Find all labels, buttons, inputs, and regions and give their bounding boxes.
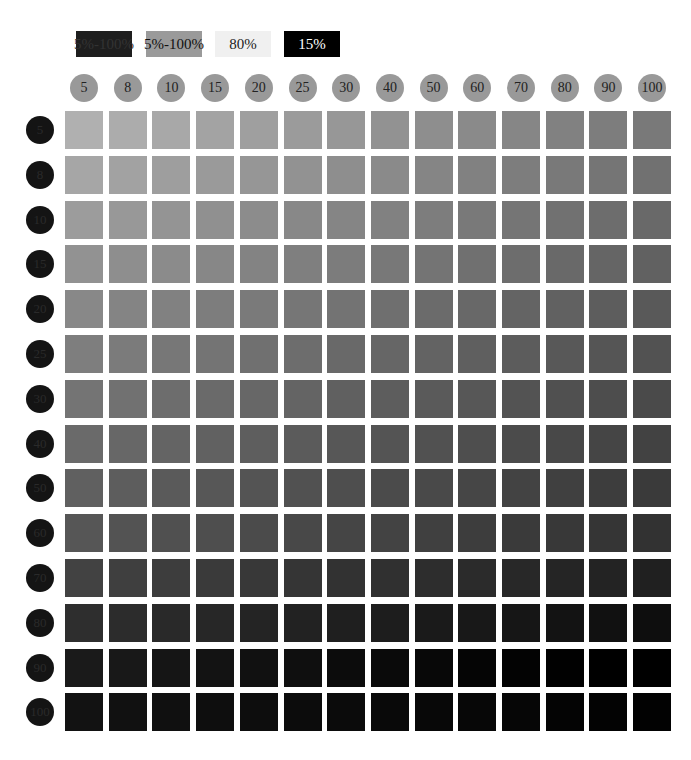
- column-header: 40: [376, 74, 404, 102]
- swatch-cell: [415, 245, 453, 283]
- swatch-cell: [109, 245, 147, 283]
- swatch-cell: [415, 604, 453, 642]
- column-header: 5: [70, 74, 98, 102]
- swatch-cell: [284, 290, 322, 328]
- swatch-cell: [240, 335, 278, 373]
- swatch-cell: [240, 380, 278, 418]
- swatch-cell: [546, 156, 584, 194]
- swatch-cell: [240, 514, 278, 552]
- swatch-cell: [152, 111, 190, 149]
- swatch-cell: [327, 469, 365, 507]
- swatch-cell: [109, 604, 147, 642]
- swatch-cell: [371, 649, 409, 687]
- row-header: 20: [26, 295, 54, 323]
- swatch-cell: [502, 425, 540, 463]
- swatch-cell: [152, 693, 190, 731]
- column-header: 30: [332, 74, 360, 102]
- swatch-cell: [546, 649, 584, 687]
- swatch-cell: [371, 245, 409, 283]
- swatch-cell: [415, 559, 453, 597]
- swatch-cell: [65, 245, 103, 283]
- row-header: 5: [26, 116, 54, 144]
- row-header: 100: [26, 698, 54, 726]
- column-header: 15: [201, 74, 229, 102]
- swatch-cell: [196, 649, 234, 687]
- swatch-cell: [502, 245, 540, 283]
- swatch-cell: [109, 559, 147, 597]
- swatch-cell: [415, 514, 453, 552]
- swatch-cell: [589, 425, 627, 463]
- swatch-cell: [327, 425, 365, 463]
- swatch-cell: [371, 156, 409, 194]
- swatch-cell: [196, 425, 234, 463]
- swatch-cell: [633, 335, 671, 373]
- swatch-cell: [458, 290, 496, 328]
- swatch-cell: [327, 604, 365, 642]
- swatch-cell: [502, 514, 540, 552]
- swatch-cell: [458, 559, 496, 597]
- swatch-cell: [65, 380, 103, 418]
- row-header: 10: [26, 206, 54, 234]
- row-header: 15: [26, 250, 54, 278]
- column-header: 100: [638, 74, 666, 102]
- row-header: 40: [26, 430, 54, 458]
- swatch-cell: [589, 156, 627, 194]
- swatch-cell: [196, 111, 234, 149]
- row-header: 8: [26, 161, 54, 189]
- swatch-cell: [589, 649, 627, 687]
- swatch-cell: [633, 693, 671, 731]
- swatch-cell: [371, 604, 409, 642]
- swatch-cell: [458, 425, 496, 463]
- swatch-cell: [546, 201, 584, 239]
- column-header: 25: [289, 74, 317, 102]
- column-header: 50: [420, 74, 448, 102]
- swatch-cell: [284, 425, 322, 463]
- swatch-cell: [65, 649, 103, 687]
- swatch-cell: [415, 290, 453, 328]
- swatch-cell: [284, 469, 322, 507]
- swatch-cell: [65, 514, 103, 552]
- swatch-cell: [109, 111, 147, 149]
- swatch-cell: [546, 469, 584, 507]
- swatch-cell: [458, 156, 496, 194]
- column-header: 80: [551, 74, 579, 102]
- swatch-cell: [371, 425, 409, 463]
- swatch-cell: [589, 380, 627, 418]
- swatch-cell: [327, 380, 365, 418]
- swatch-cell: [589, 514, 627, 552]
- swatch-cell: [327, 111, 365, 149]
- swatch-cell: [152, 604, 190, 642]
- swatch-cell: [152, 559, 190, 597]
- swatch-cell: [415, 693, 453, 731]
- column-header: 60: [463, 74, 491, 102]
- swatch-cell: [415, 469, 453, 507]
- swatch-cell: [633, 559, 671, 597]
- swatch-cell: [415, 335, 453, 373]
- swatch-cell: [415, 111, 453, 149]
- swatch-cell: [240, 425, 278, 463]
- swatch-cell: [415, 425, 453, 463]
- swatch-cell: [633, 201, 671, 239]
- swatch-cell: [589, 335, 627, 373]
- swatch-cell: [65, 290, 103, 328]
- legend-item: 15%: [284, 31, 340, 57]
- swatch-cell: [152, 335, 190, 373]
- row-header: 70: [26, 564, 54, 592]
- swatch-cell: [502, 201, 540, 239]
- swatch-cell: [371, 290, 409, 328]
- swatch-cell: [65, 425, 103, 463]
- swatch-cell: [284, 156, 322, 194]
- swatch-cell: [196, 335, 234, 373]
- swatch-cell: [284, 649, 322, 687]
- swatch-cell: [546, 111, 584, 149]
- swatch-cell: [152, 649, 190, 687]
- swatch-cell: [196, 156, 234, 194]
- swatch-cell: [633, 380, 671, 418]
- column-header: 70: [507, 74, 535, 102]
- swatch-cell: [415, 201, 453, 239]
- swatch-cell: [65, 604, 103, 642]
- swatch-cell: [546, 559, 584, 597]
- swatch-cell: [633, 245, 671, 283]
- swatch-cell: [152, 380, 190, 418]
- swatch-cell: [327, 201, 365, 239]
